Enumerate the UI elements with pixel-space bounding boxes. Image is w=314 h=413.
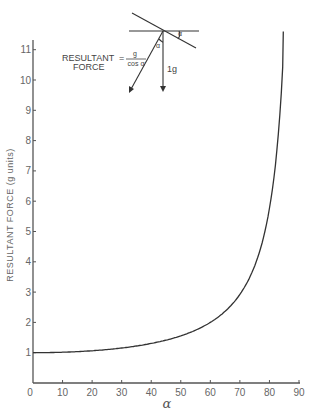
series-line-resultant-force [33, 32, 283, 353]
y-tick-label: 1 [25, 347, 31, 358]
equation-numerator: g [133, 50, 137, 58]
x-tick-label: 70 [234, 387, 246, 398]
y-tick-label: 4 [25, 256, 31, 267]
x-tick-label: 60 [205, 387, 217, 398]
y-tick-label: 11 [21, 44, 32, 55]
y-tick-label: 6 [25, 196, 31, 207]
equation-denominator: cos α [128, 60, 145, 67]
x-tick-label: 0 [27, 387, 33, 398]
y-tick-label: 10 [20, 75, 32, 86]
vertical-force-label: 1g [167, 64, 177, 74]
equation-equals: = [119, 53, 124, 63]
y-tick-label: 2 [25, 317, 31, 328]
y-tick-label: 8 [25, 135, 31, 146]
x-tick-label: 30 [116, 387, 128, 398]
x-tick-label: 90 [293, 387, 305, 398]
x-tick-label: 20 [87, 387, 99, 398]
x-tick-label: 10 [57, 387, 69, 398]
x-tick-label: 80 [264, 387, 276, 398]
y-axis-label: RESULTANT FORCE (g units) [5, 148, 15, 282]
x-axis-label: α [163, 396, 172, 411]
angle-label-top: α [178, 30, 182, 37]
vertical-arrowhead [160, 86, 166, 92]
y-tick-label: 5 [25, 226, 31, 237]
x-tick-label: 50 [175, 387, 187, 398]
inset-diagram: α α 1g RESULTANT FORCE = g cos α [62, 13, 199, 93]
y-tick-label: 9 [25, 105, 31, 116]
y-tick-label: 7 [25, 165, 31, 176]
resultant-force-chart: 0102030405060708090 1234567891011 RESULT… [0, 0, 314, 413]
x-tick-label: 40 [146, 387, 158, 398]
y-tick-label: 3 [25, 287, 31, 298]
resultant-arrowhead [129, 86, 134, 93]
equation-label-line2: FORCE [73, 62, 105, 72]
angle-label-lower: α [156, 42, 160, 49]
